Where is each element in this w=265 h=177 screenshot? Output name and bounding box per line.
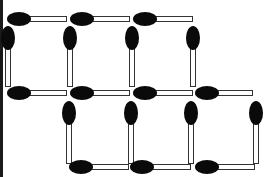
matchstick-lower-vertical-1: [62, 101, 76, 164]
match-head: [249, 101, 263, 125]
matchstick-middle-row-horizontal-3: [133, 86, 193, 100]
matchstick-middle-row-horizontal-2: [70, 86, 130, 100]
match-head: [184, 101, 198, 125]
match-head: [195, 86, 219, 100]
match-head: [62, 101, 76, 125]
matchstick-upper-vertical-3: [125, 26, 139, 87]
match-head: [195, 160, 219, 174]
matchstick-lower-vertical-4: [249, 101, 263, 164]
matchstick-bottom-row-horizontal-3: [195, 160, 255, 174]
match-head: [125, 26, 139, 50]
match-head: [7, 86, 31, 100]
match-head: [7, 12, 31, 26]
match-head: [133, 86, 157, 100]
matchstick-lower-vertical-3: [184, 101, 198, 164]
matchstick-middle-row-horizontal-4: [195, 86, 253, 100]
match-head: [70, 86, 94, 100]
matchstick-bottom-row-horizontal-2: [130, 160, 191, 174]
matchstick-top-row-horizontal-2: [70, 12, 130, 26]
match-head: [186, 26, 200, 50]
matchstick-top-row-horizontal-3: [133, 12, 193, 26]
match-head: [69, 160, 93, 174]
match-head: [130, 160, 154, 174]
match-head: [124, 101, 138, 125]
match-head: [1, 26, 15, 50]
matchstick-top-row-horizontal-1: [7, 12, 67, 26]
match-head: [133, 12, 157, 26]
match-head: [63, 26, 77, 50]
matchstick-middle-row-horizontal-1: [7, 86, 67, 100]
matchstick-upper-vertical-1: [1, 26, 15, 87]
matchstick-bottom-row-horizontal-1: [69, 160, 129, 174]
matchstick-upper-vertical-2: [63, 26, 77, 87]
matchstick-lower-vertical-2: [124, 101, 138, 164]
match-head: [70, 12, 94, 26]
matchstick-upper-vertical-4: [186, 26, 200, 87]
